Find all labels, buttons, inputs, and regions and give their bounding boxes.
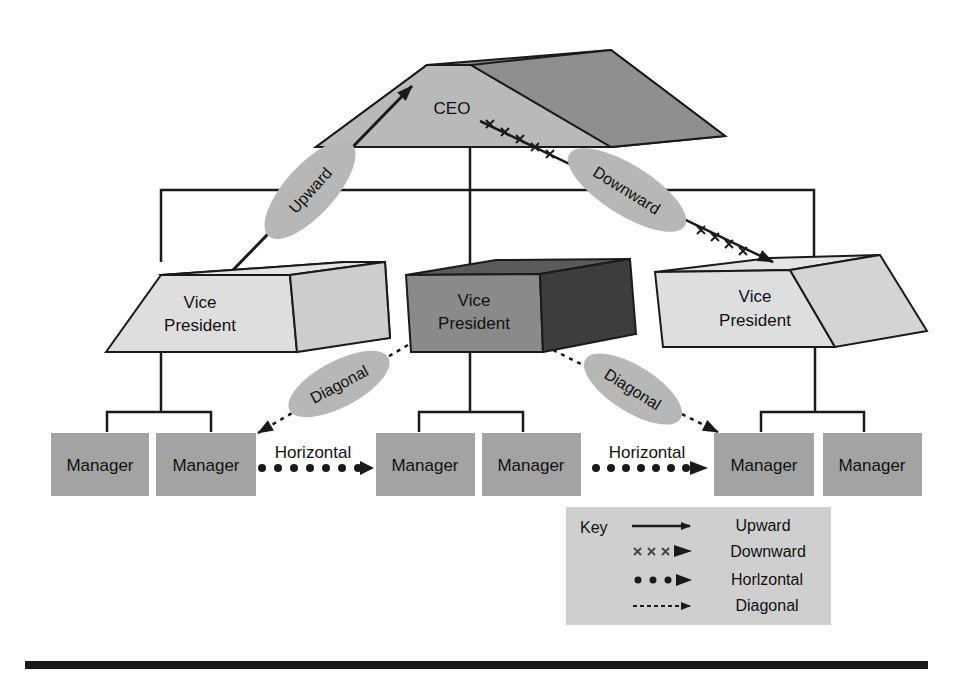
ceo-node[interactable]: CEO (316, 50, 725, 147)
diagonal-right-flow: Diagonal (553, 340, 718, 438)
horizontal-right-label: Horizontal (609, 443, 686, 462)
manager-label: Manager (172, 456, 239, 475)
upward-flow: Upward (233, 86, 412, 270)
vp-right-node[interactable]: Vice President (655, 255, 927, 347)
horizontal-right-flow: Horizontal (592, 443, 708, 475)
horizontal-right-arrowhead-icon (690, 461, 708, 475)
legend-title: Key (580, 519, 608, 536)
legend-horizontal-label: Horlzontal (731, 571, 803, 588)
horizontal-left-flow: Horizontal (258, 443, 374, 475)
org-diagram: CEO Vice President Vice President Vice P… (0, 0, 967, 687)
vp-left-label-line1: Vice (184, 293, 217, 312)
bottom-rule (25, 661, 928, 669)
ceo-label: CEO (434, 99, 471, 118)
vp-right-label-line2: President (719, 311, 791, 330)
vp-center-label-line2: President (438, 314, 510, 333)
manager-node-1[interactable]: Manager (51, 433, 149, 496)
vp-right-label-line1: Vice (739, 287, 772, 306)
manager-node-4[interactable]: Manager (482, 433, 581, 496)
horizontal-right-dots (592, 461, 708, 475)
manager-label: Manager (838, 456, 905, 475)
manager-node-2[interactable]: Manager (156, 433, 256, 496)
horizontal-left-label: Horizontal (275, 443, 352, 462)
horizontal-left-dots (258, 461, 374, 475)
legend-downward-label: Downward (730, 543, 806, 560)
manager-label: Manager (391, 456, 458, 475)
horizontal-left-arrowhead-icon (360, 461, 374, 475)
vp-center-node[interactable]: Vice President (406, 259, 636, 352)
manager-node-6[interactable]: Manager (823, 433, 922, 496)
manager-label: Manager (730, 456, 797, 475)
manager-label: Manager (66, 456, 133, 475)
manager-label: Manager (497, 456, 564, 475)
manager-node-3[interactable]: Manager (376, 433, 475, 496)
vp-left-node[interactable]: Vice President (106, 262, 390, 352)
legend-key: Key Upward Downward Horlzontal Diagonal (566, 507, 831, 625)
manager-row: Manager Manager Manager Manager Manager … (51, 433, 922, 496)
legend-upward-label: Upward (735, 517, 790, 534)
vp-center-label-line1: Vice (458, 291, 491, 310)
vp-left-label-line2: President (164, 316, 236, 335)
legend-diagonal-label: Diagonal (735, 597, 798, 614)
manager-node-5[interactable]: Manager (714, 433, 814, 496)
